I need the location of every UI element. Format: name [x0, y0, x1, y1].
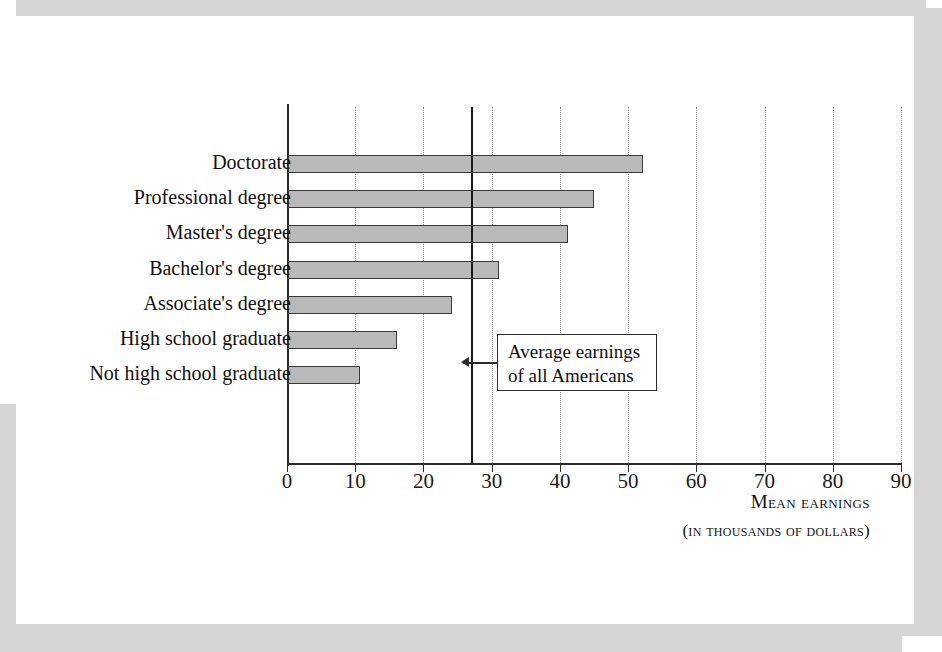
- gridline: [765, 107, 766, 463]
- x-axis-tick-label: 20: [403, 469, 443, 494]
- bar: [288, 261, 499, 279]
- x-axis-title-units: (in thousands of dollars): [580, 521, 870, 541]
- x-axis-title: Mean earnings: [600, 491, 870, 513]
- gridline: [696, 107, 697, 463]
- annotation-line-1: Average earnings: [508, 340, 648, 364]
- average-earnings-reference-line: [471, 107, 473, 463]
- bar: [288, 296, 452, 314]
- gridline: [833, 107, 834, 463]
- x-axis-tick-label: 30: [472, 469, 512, 494]
- annotation-arrow-icon: [461, 357, 469, 367]
- bar: [288, 225, 568, 243]
- bar-chart: 0102030405060708090DoctorateProfessional…: [0, 0, 942, 652]
- x-axis-tick-label: 40: [540, 469, 580, 494]
- x-axis-tick-label: 0: [267, 469, 307, 494]
- category-label: Professional degree: [134, 186, 291, 209]
- annotation-line-2: of all Americans: [508, 364, 648, 388]
- bar: [288, 155, 643, 173]
- category-label: High school graduate: [120, 327, 291, 350]
- category-label: Not high school graduate: [89, 362, 291, 385]
- x-axis-tick-label: 10: [335, 469, 375, 494]
- gridline: [901, 107, 902, 463]
- category-label: Associate's degree: [144, 292, 291, 315]
- bar: [288, 190, 594, 208]
- x-axis-line: [287, 463, 901, 465]
- x-axis-tick-label: 90: [881, 469, 921, 494]
- category-label: Master's degree: [166, 221, 291, 244]
- bar: [288, 331, 397, 349]
- annotation-box: Average earnings of all Americans: [497, 334, 657, 391]
- bar: [288, 366, 360, 384]
- category-label: Doctorate: [212, 151, 291, 174]
- category-label: Bachelor's degree: [149, 257, 291, 280]
